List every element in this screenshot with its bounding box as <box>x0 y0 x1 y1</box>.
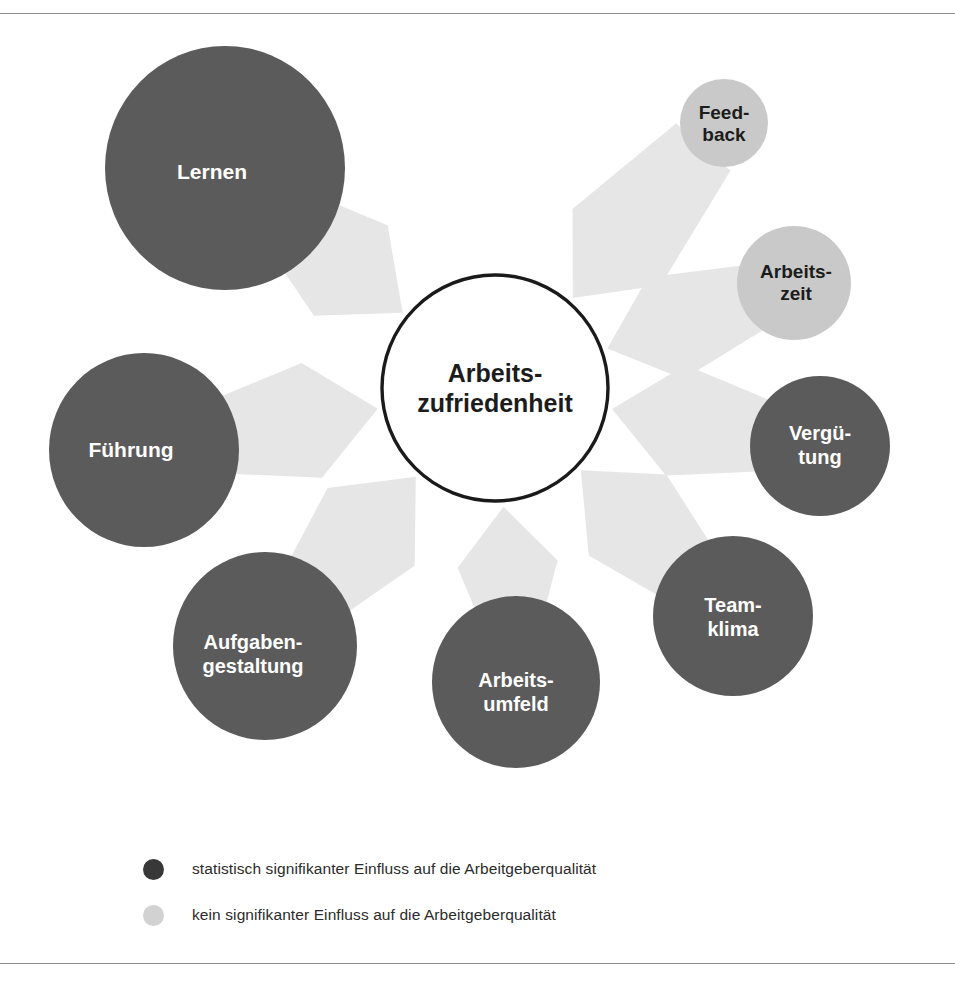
figure-canvas: LernenFeed-backArbeits-zeitVergü-tungTea… <box>0 0 955 984</box>
legend-row: kein signifikanter Einfluss auf die Arbe… <box>0 892 955 938</box>
legend-marker-not-significant-icon <box>143 905 164 926</box>
node-circle-lernen[interactable] <box>105 46 345 290</box>
node-circle-feedback[interactable] <box>680 79 768 167</box>
node-circle-arbeitszufriedenheit[interactable] <box>382 275 608 501</box>
legend-row: statistisch signifikanter Einfluss auf d… <box>0 846 955 892</box>
node-circle-aufgabengestaltung[interactable] <box>173 552 357 740</box>
node-circle-teamklima[interactable] <box>653 536 813 696</box>
legend-significant-label: statistisch signifikanter Einfluss auf d… <box>192 860 596 878</box>
node-circle-arbeitsumfeld[interactable] <box>432 596 600 768</box>
node-circle-verguetung[interactable] <box>750 376 890 516</box>
legend: statistisch signifikanter Einfluss auf d… <box>0 846 955 938</box>
hub-and-spoke-diagram: LernenFeed-backArbeits-zeitVergü-tungTea… <box>0 0 955 830</box>
node-circle-fuehrung[interactable] <box>49 353 239 547</box>
diagram-svg <box>0 0 955 830</box>
legend-not-significant-label: kein signifikanter Einfluss auf die Arbe… <box>192 906 556 924</box>
bottom-divider-rule <box>0 963 955 964</box>
node-circle-arbeitszeit[interactable] <box>737 226 851 340</box>
legend-marker-significant-icon <box>143 859 164 880</box>
